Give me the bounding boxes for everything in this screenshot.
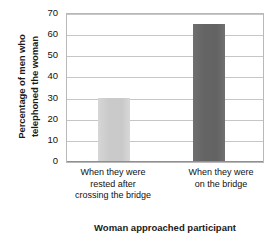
gridline (67, 14, 263, 15)
bar-1 (193, 24, 225, 161)
x-axis-title: Woman approached participant (66, 222, 264, 236)
y-axis-tick-label: 30 (6, 93, 62, 103)
y-axis-tick-labels: 706050403020100 (6, 13, 62, 163)
x-axis-category-0-line-2: crossing the bridge (50, 190, 176, 202)
gridline (67, 141, 263, 142)
y-axis-tick-label: 50 (6, 50, 62, 60)
bar-0 (98, 98, 130, 161)
y-axis-tick-label: 10 (6, 135, 62, 145)
y-axis-tick-label: 0 (6, 156, 62, 166)
x-axis-category-1: When they wereon the bridge (158, 167, 276, 190)
y-axis-tick-label: 70 (6, 8, 62, 18)
gridline (67, 120, 263, 121)
gridline (67, 56, 263, 57)
x-axis-category-1-line-1: on the bridge (158, 179, 276, 191)
x-axis-category-labels: When they wererested aftercrossing the b… (66, 167, 264, 211)
y-axis-tick-label: 40 (6, 71, 62, 81)
gridline (67, 35, 263, 36)
x-axis-category-1-line-0: When they were (158, 167, 276, 179)
y-axis-tick-label: 60 (6, 29, 62, 39)
gridline (67, 99, 263, 100)
x-axis-baseline (67, 161, 263, 162)
plot-area (66, 13, 264, 163)
bar-chart-figure: Percentage of men who telephoned the wom… (0, 0, 276, 236)
gridline (67, 77, 263, 78)
y-axis-tick-label: 20 (6, 114, 62, 124)
